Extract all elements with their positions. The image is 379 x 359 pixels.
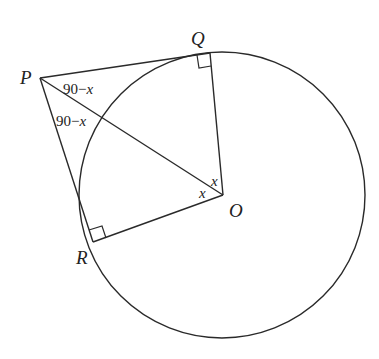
label-p: P [19,67,32,88]
angle-rop-label: x [198,185,206,201]
tangent-circle-diagram: P Q R O 90−x 90−x x x [0,0,379,359]
tangent-pr [40,78,93,242]
diagram-svg: P Q R O 90−x 90−x x x [0,0,379,359]
right-angle-q [197,55,211,68]
label-r: R [75,247,88,268]
angle-qpo-label: 90−x [63,81,93,97]
tangent-pq [40,53,210,78]
label-q: Q [191,28,205,49]
angle-rpo-label: 90−x [56,113,86,129]
radius-or [93,195,223,242]
label-o: O [229,200,243,221]
angle-qop-label: x [210,173,218,189]
